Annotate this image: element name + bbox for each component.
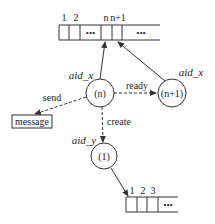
node-n-actor: aid_x [69, 69, 94, 81]
ready-label: ready [126, 80, 148, 91]
top-array: ••• ••• [59, 25, 160, 40]
create-arrow [102, 107, 103, 142]
node-n: (n) [86, 79, 114, 107]
bottom-index-3: 3 [151, 185, 156, 196]
bottom-array-index-labels: 1 2 3 [130, 185, 156, 196]
diagram-canvas: ••• ••• 1 2 n n+1 (n) aid_x (n+1) aid_x … [0, 0, 215, 224]
node-n-label: (n) [94, 88, 106, 100]
top-array-index-labels: 1 2 n n+1 [62, 12, 126, 23]
top-index-n-plus-1: n+1 [110, 12, 126, 23]
bottom-array: ••• [126, 197, 178, 212]
node-n-plus-1-label: (n+1) [161, 88, 183, 100]
node-n-plus-1-actor: aid_x [179, 66, 204, 78]
bottom-index-1: 1 [130, 185, 135, 196]
message-box: message [12, 115, 52, 128]
bottom-array-ellipsis: ••• [163, 200, 172, 210]
send-label: send [43, 92, 61, 103]
bottom-index-2: 2 [141, 185, 146, 196]
top-index-2: 2 [74, 12, 79, 23]
top-array-ellipsis-2: ••• [136, 28, 145, 38]
top-index-n: n [104, 12, 109, 23]
node-one: (1) [91, 143, 117, 169]
top-index-1: 1 [62, 12, 67, 23]
node-n-plus-1: (n+1) [158, 79, 186, 107]
node-one-actor: aid_y [72, 134, 97, 146]
top-array-ellipsis-1: ••• [86, 28, 95, 38]
node-one-label: (1) [98, 151, 110, 163]
arrow-n-to-slot-n [100, 42, 105, 79]
arrow-n1-to-slot-n1 [118, 42, 165, 81]
create-label: create [107, 116, 131, 127]
message-label: message [15, 116, 49, 127]
arrow-one-to-slot-1 [111, 168, 128, 196]
